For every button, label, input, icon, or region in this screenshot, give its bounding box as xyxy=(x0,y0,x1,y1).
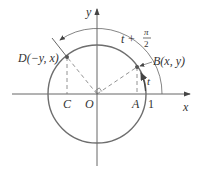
origin-label: O xyxy=(85,97,94,111)
outer-arc-label-2: 2 xyxy=(144,39,149,49)
outer-arc-label-t: t + xyxy=(121,32,135,46)
radius-od xyxy=(67,57,97,94)
one-label: 1 xyxy=(148,97,154,111)
inner-arc-label: t xyxy=(147,75,151,87)
outer-arc-label-pi: π xyxy=(144,27,149,37)
x-axis-label: x xyxy=(182,100,189,114)
y-axis-label: y xyxy=(85,5,92,19)
point-d xyxy=(65,55,69,59)
point-c-label: C xyxy=(63,97,72,111)
unit-circle-diagram: y x O C A 1 B(x, y) D(−y, x) t t + π 2 xyxy=(0,0,201,178)
point-a-label: A xyxy=(131,97,140,111)
point-b-label: B(x, y) xyxy=(153,54,185,68)
b-pointer xyxy=(140,62,152,66)
radius-ob xyxy=(97,67,137,94)
point-b xyxy=(135,65,139,69)
point-d-label: D(−y, x) xyxy=(17,51,59,65)
